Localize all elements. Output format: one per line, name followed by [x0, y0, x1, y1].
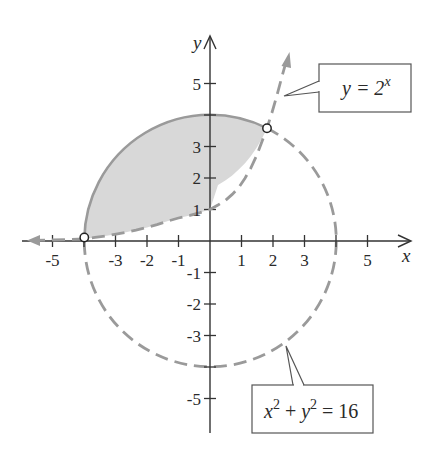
y-tick-label: 2	[193, 169, 202, 188]
x-tick-label: 3	[300, 251, 309, 270]
callout-circle-x-exp: 2	[273, 397, 280, 412]
y-tick-label: 1	[193, 201, 202, 220]
exponential-arrow-up-icon	[282, 52, 292, 68]
callout-circle-x: x	[263, 400, 273, 422]
intersection-point-left	[80, 233, 88, 241]
x-tick-label: -3	[108, 251, 122, 270]
y-tick-label: -3	[187, 327, 201, 346]
callout-circle: x2 + y2 = 16	[252, 346, 373, 433]
callout-circle-rhs: = 16	[317, 400, 358, 422]
x-tick-label: -5	[45, 251, 59, 270]
callout-circle-plus: +	[280, 400, 301, 422]
y-tick-label: -1	[187, 264, 201, 283]
svg-text:y = 2x: y = 2x	[340, 74, 391, 100]
y-axis-label: y	[191, 32, 202, 53]
y-tick-label: 5	[193, 75, 202, 94]
callout-circle-y-exp: 2	[310, 397, 317, 412]
graph-figure: x y -5 -3 -2 -1 1 2 3 5 5 3 2 1 -1 -2 -3…	[0, 0, 432, 451]
callout-exponential-exponent: x	[383, 74, 391, 89]
exponential-arrow-left-icon	[27, 235, 40, 246]
x-tick-label: -2	[140, 251, 154, 270]
x-tick-label: 1	[237, 251, 246, 270]
x-tick-label: -1	[171, 251, 185, 270]
x-tick-label: 2	[269, 251, 278, 270]
callout-exponential: y = 2x	[284, 64, 411, 112]
callout-exponential-base: y = 2	[340, 77, 384, 100]
intersection-point-right	[263, 124, 271, 132]
shaded-region	[84, 115, 267, 239]
y-tick-label: 3	[193, 138, 202, 157]
y-tick-label: -2	[187, 295, 201, 314]
x-tick-label: 5	[363, 251, 372, 270]
y-tick-label: -5	[187, 390, 201, 409]
callout-circle-y: y	[299, 400, 310, 423]
x-axis-label: x	[401, 245, 411, 266]
